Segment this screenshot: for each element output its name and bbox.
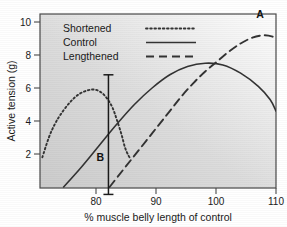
y-tick-label: 2: [25, 149, 31, 160]
x-tick-label: 110: [268, 196, 284, 207]
annotation-label-a: A: [256, 8, 264, 20]
y-tick-8: 8: [25, 50, 40, 61]
x-axis: 80 90 100 110 % muscle belly length of c…: [84, 188, 284, 223]
y-tick-label: 4: [25, 116, 31, 127]
y-axis: 10 8 6 4 2 Active tension (g): [5, 17, 40, 160]
legend-label-control: Control: [63, 36, 97, 48]
x-tick-label: 80: [90, 196, 102, 207]
y-tick-2: 2: [25, 149, 40, 160]
legend-label-lengthened: Lengthened: [63, 50, 119, 62]
x-tick-90: 90: [150, 188, 162, 207]
chart-figure: 10 8 6 4 2 Active tension (g): [0, 0, 287, 227]
legend-label-shortened: Shortened: [63, 22, 112, 34]
y-tick-label: 8: [25, 50, 31, 61]
y-tick-4: 4: [25, 116, 40, 127]
annotation-label-b: B: [96, 151, 104, 163]
x-tick-100: 100: [208, 188, 225, 207]
y-tick-label: 10: [20, 17, 32, 28]
x-tick-80: 80: [90, 188, 102, 207]
y-axis-title: Active tension (g): [5, 60, 17, 141]
x-tick-110: 110: [268, 188, 284, 207]
x-tick-label: 100: [208, 196, 225, 207]
muscle-tension-line-chart: 10 8 6 4 2 Active tension (g): [0, 0, 287, 227]
x-tick-label: 90: [150, 196, 162, 207]
x-axis-title: % muscle belly length of control: [84, 211, 232, 223]
y-tick-6: 6: [25, 83, 40, 94]
y-tick-label: 6: [25, 83, 31, 94]
y-tick-10: 10: [20, 17, 40, 28]
